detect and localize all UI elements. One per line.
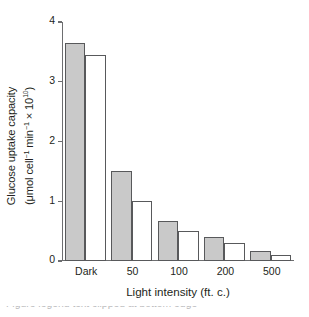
bar-gray-series-200 [204,237,225,261]
y-unit-sup1: −1 [21,151,30,159]
y-axis-title-line1: Glucose uptake capacity [4,87,19,205]
y-tick-mark [58,201,63,202]
y-tick-label: 2 [49,134,55,146]
y-unit-exponent: 10 [22,91,29,98]
y-axis-title: Glucose uptake capacity (μmol cell−1 min… [2,28,38,264]
x-tick-label-500: 500 [263,265,281,277]
y-tick-mark [58,260,63,261]
y-tick-label: 4 [49,14,55,26]
figure-caption-text: Figure legend text clipped at bottom edg… [6,306,303,309]
y-tick-mark [58,81,63,82]
x-tick-label-200: 200 [217,265,235,277]
x-axis-title: Light intensity (ft. c.) [62,285,294,298]
y-axis-tick: 4 [58,21,63,22]
bar-group [204,22,245,261]
bar-group [111,22,152,261]
bar-chart-figure: Glucose uptake capacity (μmol cell−1 min… [0,0,309,317]
x-tick-label-50: 50 [127,265,139,277]
bar-white-series-200 [224,243,245,261]
bar-group [65,22,106,261]
y-axis-tick: 3 [58,81,63,82]
y-unit-sup2: −1 [21,122,30,130]
y-tick-label: 3 [49,74,55,86]
plot-area: 01234 Dark50100200500 [62,22,294,261]
y-unit-mid: min [22,130,34,151]
bar-gray-series-Dark [65,43,86,261]
x-tick-label-100: 100 [170,265,188,277]
bar-gray-series-50 [111,171,132,261]
bar-group [250,22,291,261]
y-axis-title-line2: (μmol cell−1 min−1 × 1010) [19,87,36,205]
bar-gray-series-500 [250,251,271,261]
y-unit-pre: (μmol cell [22,158,34,205]
figure-caption-clipped: Figure legend text clipped at bottom edg… [6,306,303,317]
y-unit-post: × 10 [22,98,34,122]
y-unit-end: ) [22,87,34,91]
y-axis-tick: 1 [58,201,63,202]
bar-group [158,22,199,261]
bar-white-series-100 [178,231,199,261]
y-axis-tick: 0 [58,260,63,261]
y-tick-label: 1 [49,194,55,206]
bar-white-series-50 [132,201,153,261]
bar-white-series-Dark [85,55,106,261]
y-tick-label: 0 [49,253,55,265]
y-axis-tick: 2 [58,141,63,142]
y-tick-mark [58,141,63,142]
y-tick-mark [58,21,63,22]
x-tick-label-Dark: Dark [75,265,97,277]
bar-gray-series-100 [158,221,179,261]
bar-series-container [63,22,294,261]
bar-white-series-500 [271,255,292,261]
